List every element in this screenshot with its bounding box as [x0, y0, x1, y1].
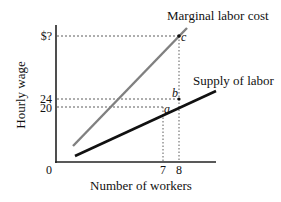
supply-of-labor-label: Supply of labor — [193, 73, 275, 88]
marginal-labor-cost-label: Marginal labor cost — [167, 8, 269, 23]
point-b-label: b — [172, 86, 178, 100]
point-c-label: c — [181, 30, 187, 44]
y-tick-20: 20 — [40, 101, 52, 115]
labor-market-chart: c b a $? 24 20 0 7 8 Hourly wage Number … — [0, 0, 281, 202]
x-tick-7: 7 — [160, 163, 166, 177]
x-tick-8: 8 — [176, 163, 182, 177]
y-axis-title: Hourly wage — [13, 61, 28, 129]
origin-label: 0 — [46, 163, 52, 177]
y-tick-unknown-wage: $? — [41, 29, 52, 43]
x-axis-title: Number of workers — [90, 178, 192, 193]
marginal-labor-cost-line — [73, 28, 187, 146]
point-a-label: a — [164, 102, 170, 116]
